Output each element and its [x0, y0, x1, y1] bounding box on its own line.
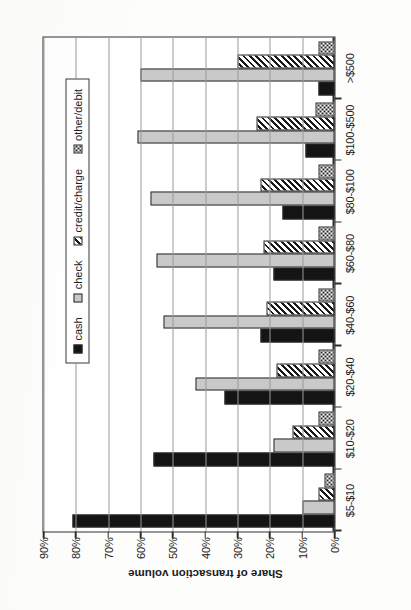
x-tick-label: >$500: [344, 53, 356, 83]
bar-cash: [318, 82, 334, 96]
legend-item-other: other/debit: [72, 89, 84, 154]
x-tick-label: $80-$100: [344, 169, 356, 214]
y-tick-label: 40%: [199, 538, 211, 559]
figure-chart-stage: Share of transaction volume $5-$10$10-$2…: [33, 25, 378, 585]
bar-other: [318, 412, 334, 426]
y-tick-label: 90%: [38, 538, 50, 559]
chart-legend: cash check credit/charge other/debit: [66, 79, 90, 364]
bar-check: [273, 439, 334, 453]
bar-credit: [276, 364, 334, 378]
x-tick-label: $40-$60: [344, 296, 356, 335]
gridline: [205, 38, 206, 532]
bar-check: [150, 192, 334, 206]
x-tick-label: $5-$10: [344, 484, 356, 517]
legend-swatch-other-icon: [73, 145, 82, 154]
gridline: [44, 38, 45, 532]
x-tick-mark: [335, 406, 342, 408]
bar-cash: [153, 452, 334, 466]
legend-item-credit: credit/charge: [72, 169, 84, 246]
bar-cash: [273, 267, 334, 281]
bar-other: [315, 103, 334, 117]
bar-group: $10-$20: [44, 408, 335, 470]
y-tick-label: 80%: [70, 538, 82, 559]
bar-other: [318, 350, 334, 364]
legend-label-cash: cash: [72, 317, 84, 340]
legend-swatch-credit-icon: [73, 237, 82, 246]
gridline: [141, 38, 142, 532]
bar-credit: [318, 487, 334, 501]
legend-label-check: check: [72, 261, 84, 290]
bar-cash: [73, 514, 335, 528]
bar-cash: [225, 391, 335, 405]
x-tick-label: $60-$80: [344, 234, 356, 273]
gridline: [238, 38, 239, 532]
y-tick-label: 10%: [296, 538, 308, 559]
x-tick-label: $100-$500: [344, 105, 356, 156]
x-tick-label: $20-$40: [344, 358, 356, 397]
y-tick-label: 70%: [102, 538, 114, 559]
bar-check: [302, 501, 334, 515]
bar-cash: [260, 329, 334, 343]
y-axis-title: Share of transaction volume: [55, 568, 355, 580]
gridline: [302, 38, 303, 532]
bar-other: [318, 41, 334, 55]
bar-cash: [305, 144, 334, 158]
bar-cash: [283, 205, 335, 219]
x-tick-mark: [335, 345, 342, 347]
x-tick-mark: [335, 159, 342, 161]
y-tick-label: 20%: [264, 538, 276, 559]
bar-check: [157, 254, 335, 268]
legend-swatch-check-icon: [73, 293, 82, 302]
y-tick-label: 30%: [232, 538, 244, 559]
gridline: [108, 38, 109, 532]
y-tick-label: 60%: [135, 538, 147, 559]
y-tick-label: 50%: [167, 538, 179, 559]
bar-credit: [263, 240, 334, 254]
legend-label-credit: credit/charge: [72, 169, 84, 233]
bar-other: [318, 226, 334, 240]
plot-area: $5-$10$10-$20$20-$40$40-$60$60-$80$80-$1…: [43, 37, 336, 533]
x-tick-mark: [335, 98, 342, 100]
bar-credit: [292, 425, 334, 439]
legend-swatch-cash-icon: [73, 345, 82, 354]
bar-group: $5-$10: [44, 470, 335, 532]
gridline: [270, 38, 271, 532]
legend-label-other: other/debit: [72, 89, 84, 141]
legend-item-check: check: [72, 261, 84, 303]
bar-credit: [257, 117, 335, 131]
x-tick-label: $10-$20: [344, 419, 356, 458]
bar-check: [163, 315, 334, 329]
bar-check: [137, 130, 334, 144]
x-tick-mark: [335, 283, 342, 285]
bar-chart: Share of transaction volume $5-$10$10-$2…: [33, 25, 378, 585]
bar-credit: [238, 55, 335, 69]
bar-credit: [267, 302, 335, 316]
x-tick-mark: [335, 221, 342, 223]
legend-item-cash: cash: [72, 317, 84, 353]
y-tick-label: 0%: [329, 538, 341, 554]
x-tick-mark: [335, 468, 342, 470]
bar-other: [318, 288, 334, 302]
gridline: [173, 38, 174, 532]
x-tick-mark: [335, 530, 342, 532]
bar-other: [318, 165, 334, 179]
bar-other: [325, 473, 335, 487]
bar-check: [195, 377, 334, 391]
bar-credit: [260, 178, 334, 192]
